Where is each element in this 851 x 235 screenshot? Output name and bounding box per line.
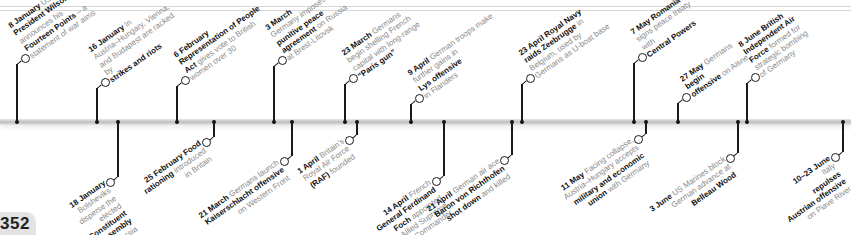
event-label-below-2: 21 March Germans launchKaiserschlacht of… [197, 158, 291, 235]
event-label-above-9: 8 June BritishIndependent AirForce forme… [737, 5, 815, 79]
event-stem [356, 122, 357, 135]
event-label-line: Kaiserschlacht offensive [202, 166, 286, 228]
event-ring-icon [181, 76, 190, 85]
event-stem [16, 64, 17, 122]
event-stem [511, 122, 512, 155]
event-highlight: Kaiserschlacht offensive [204, 166, 286, 227]
event-stem [645, 122, 646, 134]
event-label-above-6: 23 April Royal Navyraids Zeebrugge inBel… [517, 0, 612, 80]
event-ring-icon [831, 153, 840, 162]
event-ring-icon [280, 157, 289, 166]
page-number: 352 [0, 214, 30, 234]
event-label-below-1: 25 February Foodrationing introducedin B… [137, 139, 213, 204]
event-ring-icon [432, 177, 441, 186]
event-stem [213, 122, 214, 137]
event-stem [176, 86, 177, 122]
event-label-above-1: 16 January InAustria–Hungary, Vienna,and… [87, 0, 188, 84]
event-stem [677, 103, 678, 122]
top-rule [0, 6, 851, 7]
event-label-line: German advance at [653, 162, 732, 221]
event-stem [117, 122, 118, 177]
event-label-below-0: 18 JanuaryBolsheviksdisperse theelectedC… [66, 178, 140, 235]
event-stem [842, 122, 843, 152]
event-stem [521, 84, 522, 122]
event-ring-icon [638, 53, 647, 62]
timeline-bar [0, 119, 851, 125]
event-stem [344, 84, 345, 122]
event-stem [273, 66, 274, 122]
event-stem [737, 122, 738, 153]
event-ring-icon [415, 94, 424, 103]
event-label-above-7: 7 May Romaniasigns peace treatywith Cent… [629, 0, 704, 59]
event-stem [410, 104, 411, 122]
event-ring-icon [526, 74, 535, 83]
event-ring-icon [202, 138, 211, 147]
event-stem [291, 122, 292, 156]
event-stem [96, 88, 97, 122]
event-label-below-8: 10–23 JuneItaly repulsesAustrian offensi… [769, 154, 851, 232]
event-label-below-7: 3 June US Marines blockGerman advance at… [648, 155, 738, 230]
event-label-above-2: 6 FebruaryRepresentation of PeopleAct gi… [172, 0, 272, 82]
event-stem [633, 63, 634, 122]
event-ring-icon [682, 93, 691, 102]
event-label-above-5: 9 April German troops makefurther gains … [406, 11, 511, 100]
event-stem [443, 122, 444, 176]
event-stem [746, 83, 747, 122]
event-ring-icon [349, 74, 358, 83]
event-label-below-6: 11 May Facing collapse,Austria–Hungary a… [557, 135, 652, 217]
top-rule-2 [0, 10, 851, 11]
